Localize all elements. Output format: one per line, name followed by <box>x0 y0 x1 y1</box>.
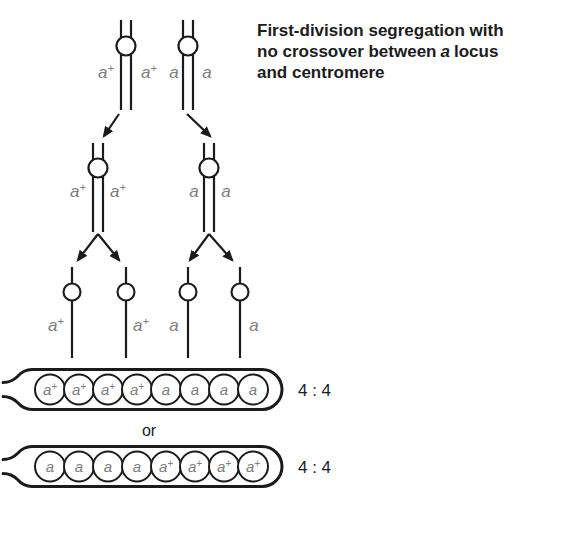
allele-label: a+ <box>133 315 149 335</box>
or-label: or <box>142 422 157 439</box>
spore-label: a <box>220 381 228 398</box>
title-line-3: and centromere <box>257 63 385 82</box>
allele-label: a+ <box>48 315 64 335</box>
allele-label: a <box>169 63 178 82</box>
dyad-a-plus <box>89 143 108 232</box>
spore-label: a <box>191 381 199 398</box>
centromere <box>117 37 136 56</box>
chromatid-pair-a-plus <box>117 20 136 110</box>
division-2-arrow-right-b <box>209 234 232 260</box>
allele-label: a+ <box>110 181 126 201</box>
spore-label: a <box>162 381 170 398</box>
spore-label: a <box>133 458 141 475</box>
allele-label: a+ <box>70 181 86 201</box>
centromere <box>180 284 197 301</box>
centromere <box>179 37 198 56</box>
centromere <box>200 159 219 178</box>
allele-label: a <box>221 182 230 201</box>
title-line-1: First-division segregation with <box>257 21 504 40</box>
centromere <box>232 284 249 301</box>
diagram-canvas: First-division segregation with no cross… <box>0 0 565 554</box>
division-2-arrow-right-a <box>190 234 209 260</box>
allele-label: a+ <box>98 62 114 82</box>
division-2-arrow-left-a <box>78 234 98 260</box>
tetrad-stage: a+ a+ a a <box>98 20 212 110</box>
spore-label: a <box>46 458 54 475</box>
centromere <box>64 284 81 301</box>
spore-label: a <box>75 458 83 475</box>
fds-segregation-diagram: First-division segregation with no cross… <box>0 0 565 554</box>
title-block: First-division segregation with no cross… <box>257 21 504 82</box>
centromere <box>118 284 135 301</box>
centromere <box>89 159 108 178</box>
allele-label: a <box>189 182 198 201</box>
division-2-arrow-left-b <box>98 234 119 260</box>
allele-label: a <box>202 63 211 82</box>
ratio-label: 4 : 4 <box>298 381 331 400</box>
allele-label: a+ <box>141 62 157 82</box>
chromatid-pair-a <box>179 20 198 110</box>
title-line-2: no crossover betweenalocus <box>257 42 498 61</box>
dyad-stage: a+ a+ a a <box>70 143 231 232</box>
ratio-label: 4 : 4 <box>298 458 331 477</box>
spore-label: a <box>104 458 112 475</box>
division-1-arrow-left <box>104 114 119 136</box>
dyad-a <box>200 143 219 232</box>
allele-label: a <box>169 316 178 335</box>
monad-stage: a+ a+ a a <box>48 267 259 358</box>
allele-label: a <box>249 316 258 335</box>
division-1-arrow-right <box>187 114 210 136</box>
spore-label: a <box>249 381 257 398</box>
ascus-1: a+ a+ a+ a+ a a a a 4 : 4 <box>3 370 331 410</box>
ascus-2: a a a a a+ a+ a+ a+ 4 : 4 <box>3 447 331 487</box>
